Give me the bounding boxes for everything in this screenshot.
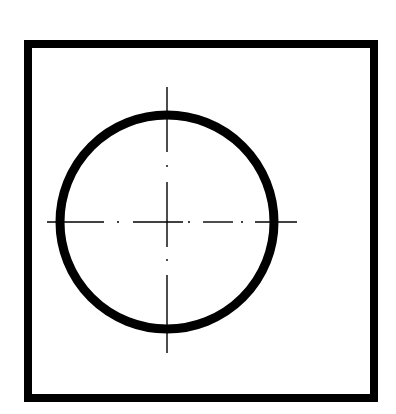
technical-drawing (0, 0, 396, 414)
outer-square (28, 44, 374, 398)
